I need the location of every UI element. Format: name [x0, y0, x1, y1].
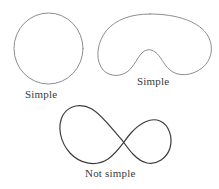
caption-figure-eight: Not simple	[85, 167, 136, 179]
caption-kidney-bean: Simple	[137, 75, 169, 87]
circle-shape	[14, 13, 83, 84]
caption-circle: Simple	[25, 88, 57, 100]
figure-container: Simple Simple Not simple	[0, 0, 219, 189]
figure-eight-shape	[60, 106, 171, 164]
kidney-bean-shape	[98, 14, 212, 75]
